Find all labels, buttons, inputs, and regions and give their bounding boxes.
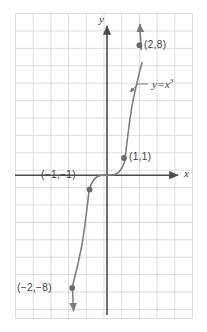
equation-operator: =: [157, 78, 165, 90]
point-neg1-neg1: [87, 187, 93, 193]
curve-equation-label: y=x3: [152, 78, 174, 90]
equation-exponent: 3: [170, 77, 174, 85]
point-label-neg2-neg8: (−2,−8): [17, 283, 52, 293]
point-2-8: [137, 42, 143, 48]
y-axis-label: y: [99, 14, 104, 25]
point-label-neg1-neg1: (−1,−1): [41, 170, 76, 180]
point-1-1: [121, 155, 127, 161]
point-label-2-8: (2,8): [144, 40, 167, 50]
cubic-function-graph-figure: (2,8) (1,1) (−1,−1) (−2,−8) y x y=x3: [0, 0, 207, 332]
point-label-1-1: (1,1): [129, 152, 152, 162]
point-neg2-neg8: [69, 285, 75, 291]
equation-leader-line: [130, 84, 148, 92]
grid-lines: [16, 14, 193, 319]
x-axis-label: x: [184, 168, 189, 179]
